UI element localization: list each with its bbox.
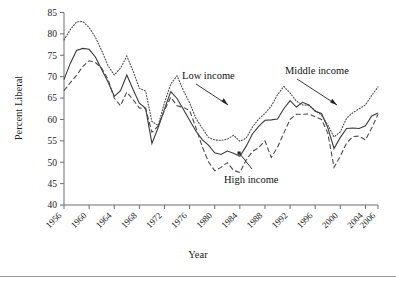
y-tick-label: 80 xyxy=(48,29,58,39)
annotation-label-high-income: High income xyxy=(224,174,279,185)
figure-container: 40455055606570758085 1956196019641968197… xyxy=(0,0,396,284)
y-tick-label: 55 xyxy=(48,136,58,146)
y-tick-label: 40 xyxy=(48,200,58,210)
x-axis-title: Year xyxy=(188,249,208,260)
chart-background xyxy=(0,0,396,284)
y-axis-title: Percent Liberal xyxy=(13,76,24,141)
y-tick-label: 85 xyxy=(48,8,58,18)
income-liberalism-line-chart: 40455055606570758085 1956196019641968197… xyxy=(0,0,396,284)
y-tick-label: 70 xyxy=(48,72,58,82)
annotation-label-low-income: Low income xyxy=(182,70,235,81)
annotation-label-middle-income: Middle income xyxy=(285,65,349,76)
y-tick-label: 75 xyxy=(48,51,58,61)
y-tick-label: 60 xyxy=(48,115,58,125)
y-tick-label: 65 xyxy=(48,93,58,103)
y-tick-label: 45 xyxy=(48,179,58,189)
y-tick-label: 50 xyxy=(48,158,58,168)
